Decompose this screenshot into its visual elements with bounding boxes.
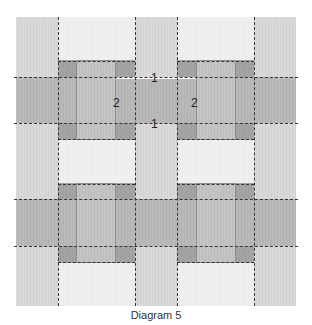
medium-band	[16, 199, 76, 246]
light-square	[254, 246, 296, 306]
very-light-rectangle	[177, 17, 254, 60]
medium-band	[236, 77, 296, 123]
medium-band	[116, 199, 196, 246]
seam-line	[58, 61, 135, 62]
light-square	[254, 17, 296, 77]
seam-line	[14, 246, 298, 247]
light-square	[16, 17, 58, 77]
medium-band	[236, 199, 296, 246]
light-square	[135, 246, 177, 306]
light-square	[254, 123, 296, 199]
seam-line	[58, 184, 135, 185]
strip-label-right: 2	[191, 97, 198, 109]
seam-label-bottom: 1	[151, 118, 158, 130]
very-light-rectangle	[58, 140, 135, 183]
light-square	[135, 17, 177, 77]
seam-line	[177, 184, 254, 185]
seam-line	[177, 139, 254, 140]
vertical-strip	[196, 183, 236, 263]
light-square	[16, 246, 58, 306]
quilt-diagram: 1 1 2 2	[0, 0, 312, 325]
seam-line	[254, 17, 255, 306]
vertical-strip	[76, 60, 116, 140]
light-square	[16, 123, 58, 199]
vertical-strip	[76, 183, 116, 263]
very-light-rectangle	[58, 263, 135, 306]
very-light-rectangle	[177, 140, 254, 183]
seam-line	[135, 17, 136, 306]
seam-line	[177, 61, 254, 62]
seam-label-top: 1	[151, 72, 158, 84]
seam-line	[177, 262, 254, 263]
very-light-rectangle	[177, 263, 254, 306]
medium-band	[16, 77, 76, 123]
strip-label-left: 2	[113, 97, 120, 109]
seam-line	[58, 139, 135, 140]
seam-line	[14, 199, 298, 200]
vertical-strip	[196, 60, 236, 140]
diagram-caption: Diagram 5	[0, 309, 312, 321]
very-light-rectangle	[58, 17, 135, 60]
light-square	[135, 123, 177, 199]
seam-line	[58, 262, 135, 263]
